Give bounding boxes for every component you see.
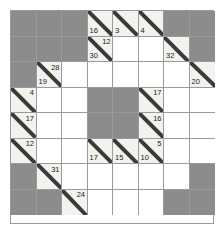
entry-cell-r4c3[interactable] (62, 88, 88, 114)
clue-cell-r5c1: 17 (11, 113, 37, 139)
clue-number-across-r5c6: 16 (153, 115, 161, 123)
clue-number-across-r3c2: 28 (51, 64, 59, 72)
entry-cell-r6c8[interactable] (190, 139, 216, 165)
clue-number-down-r1c6: 4 (141, 27, 145, 35)
blocked-cell-r1c3 (62, 11, 88, 37)
entry-cell-r5c7[interactable] (164, 113, 190, 139)
entry-cell-r5c2[interactable] (37, 113, 63, 139)
blocked-cell-r2c2 (37, 37, 63, 63)
clue-number-down-r3c2: 19 (39, 78, 47, 86)
clue-cell-r2c4: 3012 (88, 37, 114, 63)
entry-cell-r2c5[interactable] (113, 37, 139, 63)
entry-cell-r3c3[interactable] (62, 62, 88, 88)
blocked-cell-r1c1 (11, 11, 37, 37)
clue-number-across-r6c6: 5 (157, 140, 161, 148)
blocked-cell-r4c4 (88, 88, 114, 114)
clue-cell-r6c4: 17 (88, 139, 114, 165)
kakuro-grid[interactable]: 163430123219282041717161217151053124 (10, 10, 214, 224)
clue-number-down-r6c6: 10 (141, 154, 149, 162)
blocked-cell-r2c1 (11, 37, 37, 63)
blocked-cell-r5c5 (113, 113, 139, 139)
entry-cell-r3c6[interactable] (139, 62, 165, 88)
clue-cell-r8c3: 24 (62, 190, 88, 216)
clue-cell-r1c4: 16 (88, 11, 114, 37)
clue-number-down-r3c8: 20 (192, 78, 200, 86)
clue-number-across-r8c3: 24 (77, 191, 85, 199)
entry-cell-r3c7[interactable] (164, 62, 190, 88)
clue-number-across-r4c6: 17 (153, 89, 161, 97)
clue-cell-r7c2: 31 (37, 164, 63, 190)
entry-cell-r4c8[interactable] (190, 88, 216, 114)
clue-number-down-r6c5: 15 (115, 154, 123, 162)
clue-number-across-r6c1: 12 (26, 140, 34, 148)
blocked-cell-r2c8 (190, 37, 216, 63)
entry-cell-r2c6[interactable] (139, 37, 165, 63)
blocked-cell-r1c8 (190, 11, 216, 37)
entry-cell-r7c7[interactable] (164, 164, 190, 190)
entry-cell-r7c5[interactable] (113, 164, 139, 190)
clue-cell-r3c8: 20 (190, 62, 216, 88)
clue-cell-r2c7: 32 (164, 37, 190, 63)
clue-number-across-r7c2: 31 (51, 166, 59, 174)
entry-cell-r6c2[interactable] (37, 139, 63, 165)
blocked-cell-r4c5 (113, 88, 139, 114)
blocked-cell-r2c3 (62, 37, 88, 63)
clue-number-across-r4c1: 4 (30, 89, 34, 97)
entry-cell-r7c3[interactable] (62, 164, 88, 190)
clue-number-down-r1c5: 3 (115, 27, 119, 35)
blocked-cell-r8c7 (164, 190, 190, 216)
entry-cell-r3c4[interactable] (88, 62, 114, 88)
entry-cell-r8c5[interactable] (113, 190, 139, 216)
blocked-cell-r8c8 (190, 190, 216, 216)
clue-cell-r6c5: 15 (113, 139, 139, 165)
clue-number-down-r2c7: 32 (166, 52, 174, 60)
blocked-cell-r1c7 (164, 11, 190, 37)
entry-cell-r8c6[interactable] (139, 190, 165, 216)
clue-number-down-r2c4: 30 (90, 52, 98, 60)
entry-cell-r8c4[interactable] (88, 190, 114, 216)
puzzle-page: 163430123219282041717161217151053124 (0, 0, 224, 234)
blocked-cell-r5c4 (88, 113, 114, 139)
clue-cell-r5c6: 16 (139, 113, 165, 139)
entry-cell-r3c5[interactable] (113, 62, 139, 88)
entry-cell-r7c6[interactable] (139, 164, 165, 190)
clue-number-across-r2c4: 12 (102, 38, 110, 46)
clue-number-across-r5c1: 17 (26, 115, 34, 123)
blocked-cell-r7c8 (190, 164, 216, 190)
entry-cell-r4c7[interactable] (164, 88, 190, 114)
blocked-cell-r7c1 (11, 164, 37, 190)
entry-cell-r4c2[interactable] (37, 88, 63, 114)
entry-cell-r7c4[interactable] (88, 164, 114, 190)
blocked-cell-r1c2 (37, 11, 63, 37)
clue-cell-r4c6: 17 (139, 88, 165, 114)
entry-cell-r6c3[interactable] (62, 139, 88, 165)
clue-number-down-r1c4: 16 (90, 27, 98, 35)
blocked-cell-r3c1 (11, 62, 37, 88)
blocked-cell-r8c1 (11, 190, 37, 216)
entry-cell-r5c3[interactable] (62, 113, 88, 139)
entry-cell-r6c7[interactable] (164, 139, 190, 165)
blocked-cell-r8c2 (37, 190, 63, 216)
clue-cell-r6c6: 105 (139, 139, 165, 165)
entry-cell-r5c8[interactable] (190, 113, 216, 139)
clue-cell-r1c5: 3 (113, 11, 139, 37)
clue-cell-r6c1: 12 (11, 139, 37, 165)
clue-cell-r4c1: 4 (11, 88, 37, 114)
clue-cell-r3c2: 1928 (37, 62, 63, 88)
clue-number-down-r6c4: 17 (90, 154, 98, 162)
clue-cell-r1c6: 4 (139, 11, 165, 37)
